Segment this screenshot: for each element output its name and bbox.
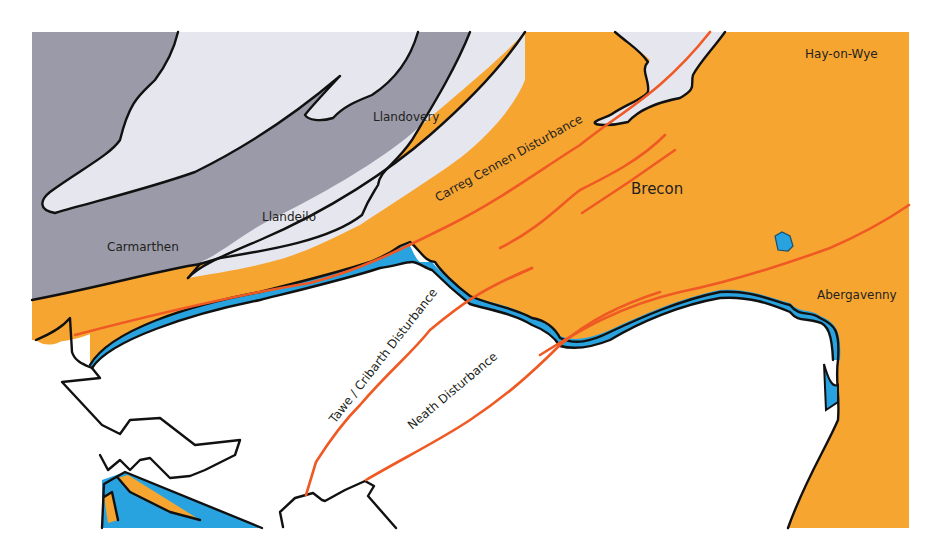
geological-map: Hay-on-Wye Llandovery Brecon Llandeilo C… — [0, 0, 936, 552]
place-label-llandovery: Llandovery — [373, 110, 439, 124]
place-label-abergavenny: Abergavenny — [817, 288, 897, 302]
place-label-hay-on-wye: Hay-on-Wye — [805, 47, 878, 61]
place-label-brecon: Brecon — [631, 180, 683, 198]
place-label-carmarthen: Carmarthen — [107, 240, 179, 254]
place-label-llandeilo: Llandeilo — [262, 210, 316, 224]
